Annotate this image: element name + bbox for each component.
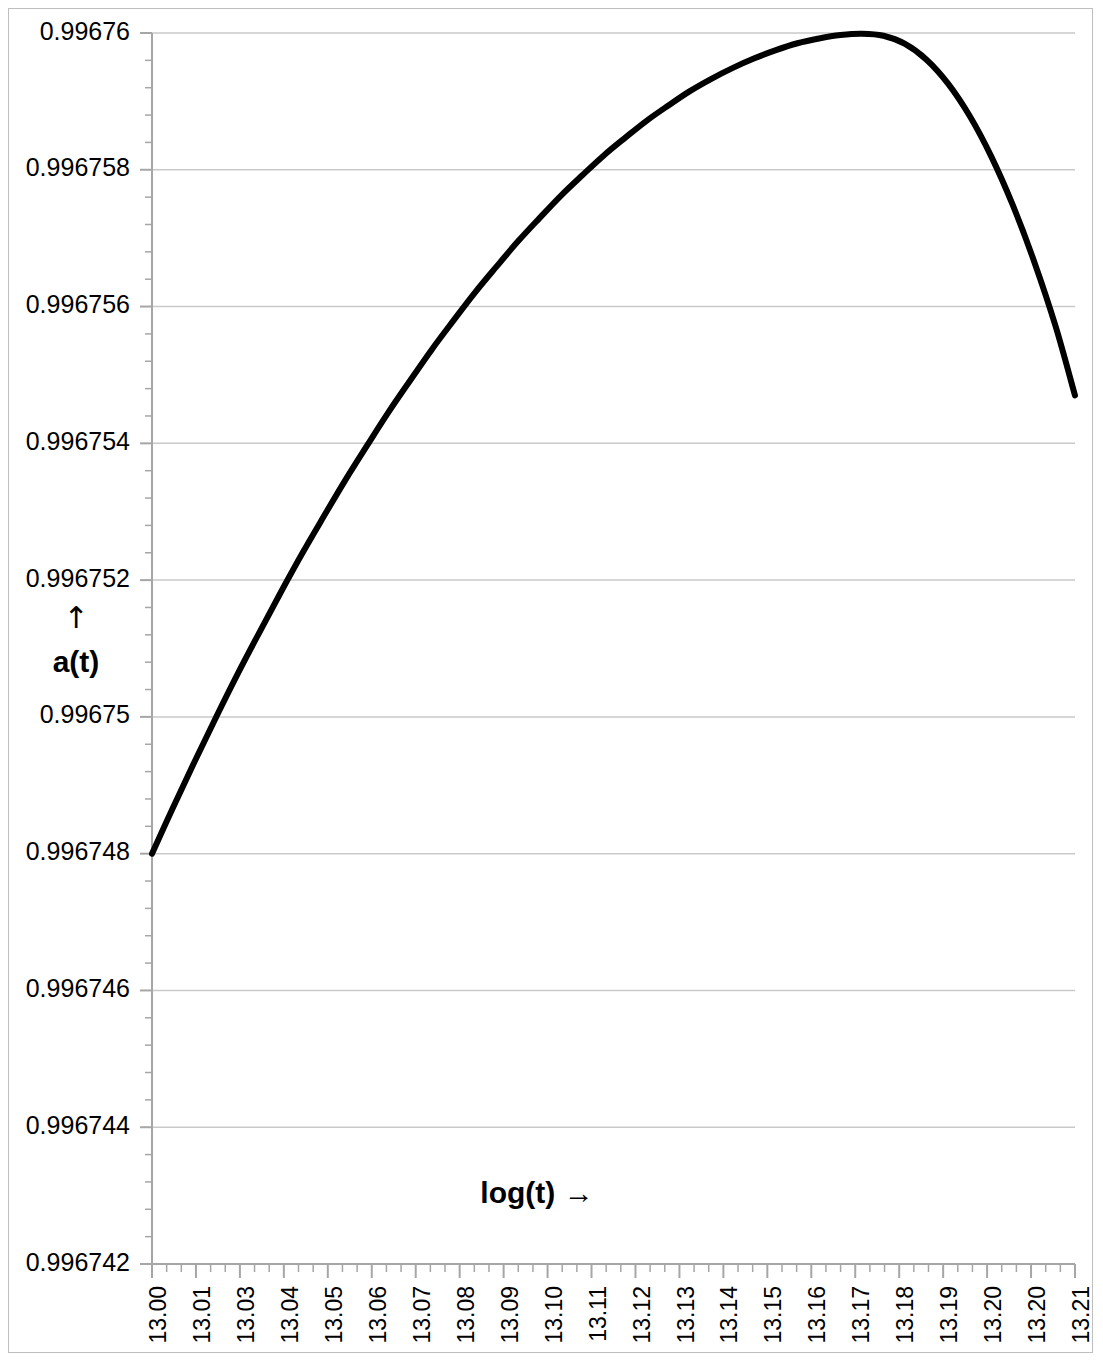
y-tick-marks — [140, 33, 152, 1264]
x-axis-title: log(t) → — [480, 1176, 593, 1209]
y-axis-title-group: ↑ a(t) — [53, 600, 100, 678]
x-tick-label: 13.01 — [189, 1286, 215, 1344]
x-tick-label: 13.20 — [1024, 1286, 1050, 1344]
x-tick-label: 13.08 — [453, 1286, 479, 1344]
y-tick-label: 0.996758 — [26, 153, 130, 181]
y-tick-label: 0.996756 — [26, 290, 130, 318]
y-tick-label: 0.99675 — [40, 700, 130, 728]
x-tick-label: 13.19 — [936, 1286, 962, 1344]
line-chart: 0.996760.9967580.9967560.9967540.9967520… — [0, 0, 1103, 1362]
y-tick-label: 0.996748 — [26, 837, 130, 865]
y-tick-label: 0.996752 — [26, 564, 130, 592]
x-tick-label: 13.04 — [277, 1286, 303, 1344]
gridline-group — [152, 33, 1075, 1264]
x-tick-label: 13.03 — [233, 1286, 259, 1344]
y-tick-label: 0.996746 — [26, 974, 130, 1002]
x-tick-label: 13.06 — [365, 1286, 391, 1344]
x-tick-label: 13.07 — [409, 1286, 435, 1344]
x-tick-label: 13.12 — [629, 1286, 655, 1344]
x-tick-label: 13.00 — [145, 1286, 171, 1344]
x-tick-label: 13.15 — [760, 1286, 786, 1344]
x-tick-label: 13.17 — [848, 1286, 874, 1344]
y-tick-label: 0.996742 — [26, 1248, 130, 1276]
x-tick-label: 13.13 — [673, 1286, 699, 1344]
y-tick-label: 0.996754 — [26, 427, 130, 455]
x-tick-marks — [152, 1264, 1075, 1278]
x-tick-label: 13.21 — [1068, 1286, 1094, 1344]
y-tick-label: 0.996744 — [26, 1111, 130, 1139]
x-tick-label: 13.18 — [892, 1286, 918, 1344]
y-tick-label: 0.99676 — [40, 17, 130, 45]
x-tick-label: 13.09 — [497, 1286, 523, 1344]
x-tick-label: 13.20 — [980, 1286, 1006, 1344]
y-axis-up-arrow-icon: ↑ — [63, 600, 88, 635]
x-tick-label: 13.16 — [804, 1286, 830, 1344]
y-axis-title: a(t) — [53, 645, 100, 678]
x-tick-label: 13.14 — [716, 1286, 742, 1344]
chart-page: 0.996760.9967580.9967560.9967540.9967520… — [0, 0, 1103, 1362]
x-tick-label: 13.10 — [541, 1286, 567, 1344]
x-tick-label-group: 13.0013.0113.0313.0413.0513.0613.0713.08… — [145, 1286, 1094, 1344]
x-tick-label: 13.11 — [585, 1286, 611, 1342]
x-tick-label: 13.05 — [321, 1286, 347, 1344]
